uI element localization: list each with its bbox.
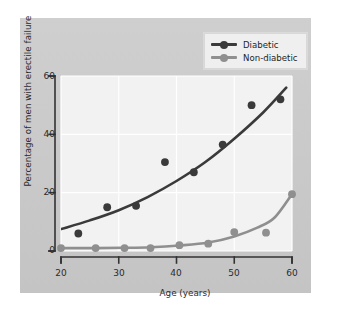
y-tick-label: 20 bbox=[33, 187, 55, 197]
x-tick-label: 50 bbox=[222, 268, 246, 278]
x-tick-label: 60 bbox=[280, 268, 304, 278]
y-tick-label: 60 bbox=[33, 71, 55, 81]
data-point bbox=[92, 244, 100, 252]
data-point bbox=[204, 240, 212, 248]
data-point bbox=[121, 244, 129, 252]
data-point bbox=[262, 229, 270, 237]
data-point bbox=[230, 228, 238, 236]
legend-item-diabetic: Diabetic bbox=[211, 38, 298, 51]
data-point bbox=[175, 241, 183, 249]
data-point bbox=[132, 202, 140, 210]
y-tick-label: 40 bbox=[33, 129, 55, 139]
x-axis-title: Age (years) bbox=[60, 288, 310, 298]
data-point bbox=[147, 244, 155, 252]
plot-container: 60 40 20 0 20 30 40 50 60 Percentage of … bbox=[0, 0, 338, 311]
data-point bbox=[161, 158, 169, 166]
legend-key-diabetic-icon bbox=[211, 39, 237, 50]
data-point bbox=[57, 244, 65, 252]
legend-label: Non-diabetic bbox=[243, 53, 298, 63]
data-point bbox=[219, 141, 227, 149]
legend-item-non-diabetic: Non-diabetic bbox=[211, 51, 298, 64]
x-tick-label: 30 bbox=[107, 268, 131, 278]
x-tick-label: 20 bbox=[49, 268, 73, 278]
y-axis-title: Percentage of men with erectile failure bbox=[23, 1, 33, 201]
legend-key-non-diabetic-icon bbox=[211, 52, 237, 63]
data-point bbox=[288, 190, 296, 198]
x-tick-label: 40 bbox=[164, 268, 188, 278]
figure-root: 60 40 20 0 20 30 40 50 60 Percentage of … bbox=[0, 0, 338, 311]
legend-label: Diabetic bbox=[243, 40, 279, 50]
data-point bbox=[74, 230, 82, 238]
data-point bbox=[248, 101, 256, 109]
data-point bbox=[190, 168, 198, 176]
legend: Diabetic Non-diabetic bbox=[204, 33, 307, 69]
data-point bbox=[277, 95, 285, 103]
y-tick-label: 0 bbox=[33, 245, 55, 255]
data-point bbox=[103, 203, 111, 211]
